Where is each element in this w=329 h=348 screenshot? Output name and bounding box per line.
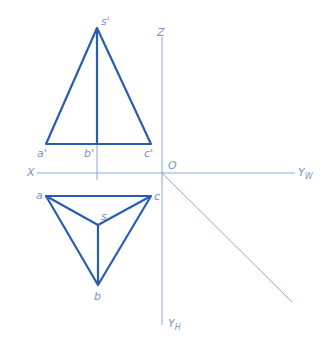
projection-diagram: s' Z a' b' c' O X YW a c s b YH — [0, 0, 329, 348]
label-a-prime: a' — [37, 148, 47, 159]
label-yh: YH — [168, 318, 181, 329]
label-b: b — [94, 291, 101, 302]
label-x: X — [27, 167, 35, 178]
label-c-prime: c' — [144, 148, 153, 159]
label-a: a — [36, 190, 43, 201]
label-origin: O — [168, 160, 177, 171]
diagram-drawing — [0, 0, 329, 348]
label-yw-main: Y — [298, 166, 305, 179]
label-c: c — [154, 191, 160, 202]
top-view — [46, 196, 151, 285]
label-yw: YW — [298, 167, 313, 178]
label-s: s — [101, 211, 107, 222]
label-yh-main: Y — [168, 317, 175, 330]
label-yw-sub: W — [305, 172, 313, 181]
label-b-prime: b' — [84, 148, 94, 159]
label-yh-sub: H — [175, 323, 181, 332]
bisector-line — [162, 173, 292, 302]
front-view — [46, 28, 151, 144]
label-s-prime: s' — [101, 16, 110, 27]
label-z: Z — [157, 27, 165, 38]
front-triangle — [46, 28, 151, 144]
